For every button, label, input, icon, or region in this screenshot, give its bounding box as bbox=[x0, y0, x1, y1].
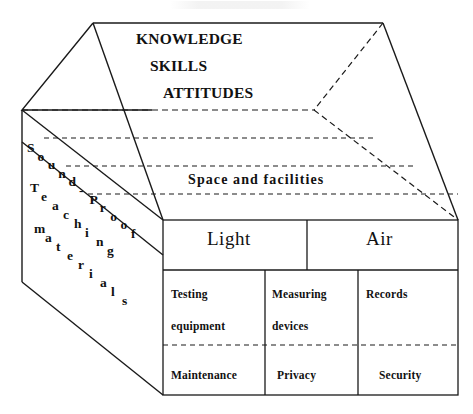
cell-label-devices: devices bbox=[272, 320, 309, 332]
left-wall-bottom-slope bbox=[22, 282, 163, 395]
diagram-canvas: KNOWLEDGE SKILLS ATTITUDES Space and fac… bbox=[0, 0, 473, 414]
cell-label-security: Security bbox=[379, 369, 421, 381]
roof-front-right-slope bbox=[383, 23, 458, 220]
side-label-char: a bbox=[100, 275, 107, 291]
side-label-char: n bbox=[58, 166, 66, 182]
side-label-char: o bbox=[110, 209, 117, 225]
side-label-char: a bbox=[52, 198, 59, 214]
cell-label-privacy: Privacy bbox=[277, 369, 316, 381]
cell-label-air: Air bbox=[366, 228, 393, 250]
side-label-char: P bbox=[89, 192, 97, 208]
side-label-char: o bbox=[37, 149, 44, 165]
side-label-char: u bbox=[48, 157, 56, 173]
side-label-char: r bbox=[100, 200, 106, 216]
side-label-char: - bbox=[79, 183, 84, 199]
side-label-char: h bbox=[74, 216, 82, 232]
roof-label-knowledge: KNOWLEDGE bbox=[136, 31, 243, 47]
cell-label-light: Light bbox=[207, 228, 251, 250]
side-label-char: c bbox=[63, 207, 69, 223]
side-label-char: t bbox=[56, 239, 61, 255]
roof-back-right-hip-dashed bbox=[314, 23, 383, 110]
cell-label-measuring: Measuring bbox=[272, 288, 327, 300]
roof-label-attitudes: ATTITUDES bbox=[163, 85, 253, 101]
side-label-char: f bbox=[131, 226, 136, 242]
side-label-char: d bbox=[69, 174, 77, 190]
side-label-char: e bbox=[41, 189, 47, 205]
side-label-char: a bbox=[45, 230, 52, 246]
side-label-char: T bbox=[30, 180, 39, 196]
house-diagram-graphic bbox=[0, 0, 473, 414]
attic-label-space-and-facilities: Space and facilities bbox=[188, 172, 324, 188]
roof-label-skills: SKILLS bbox=[150, 58, 207, 74]
cell-label-equipment: equipment bbox=[171, 320, 225, 332]
roof-left-gable bbox=[22, 23, 152, 110]
side-label-char: S bbox=[27, 140, 35, 156]
side-label-char: o bbox=[121, 217, 128, 233]
side-label-char: l bbox=[111, 284, 115, 300]
side-label-char: i bbox=[85, 225, 89, 241]
side-label-char: g bbox=[107, 243, 114, 259]
side-label-char: e bbox=[67, 248, 73, 264]
side-label-char: s bbox=[122, 293, 127, 309]
cell-label-records: Records bbox=[366, 288, 408, 300]
roof-front-left-slope bbox=[93, 23, 163, 220]
cell-label-testing: Testing bbox=[171, 288, 208, 300]
side-label-char: r bbox=[78, 257, 84, 273]
cell-label-maintenance: Maintenance bbox=[171, 369, 237, 381]
side-label-char: n bbox=[96, 234, 104, 250]
side-label-char: i bbox=[89, 266, 93, 282]
side-label-char: m bbox=[34, 221, 45, 237]
